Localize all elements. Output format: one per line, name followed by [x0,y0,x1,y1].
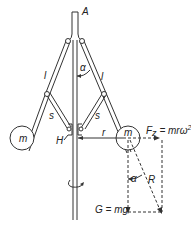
pivot-top-left [66,39,71,44]
link-right [81,94,106,129]
label-l-left: l [44,70,47,81]
pivot-sleeve-right [79,127,83,131]
label-weight: G = mg [95,204,129,215]
label-a: A [81,6,89,17]
label-s-right: s [95,110,100,121]
pivot-mid-left [45,92,50,97]
rotation-arrow-icon [68,180,84,187]
pivot-sleeve-left [67,127,71,131]
centrifugal-governor-diagram: A α l l s s m m H r Fz = mrω2 α R G = mg [0,0,191,226]
label-r: r [102,127,106,138]
label-alpha-upper: α [80,62,86,73]
label-resultant-r: R [148,174,155,185]
label-mass-right: m [124,127,132,138]
upper-arm-left [45,41,70,96]
pivot-top-right [80,39,85,44]
label-centrifugal-force: Fz = mrω2 [146,124,191,138]
label-h: H [56,135,64,146]
pivot-mid-right [102,92,107,97]
label-alpha-lower: α [131,173,137,184]
label-s-left: s [49,110,54,121]
label-l-right: l [101,71,104,82]
label-mass-left: m [19,133,27,144]
spindle-shaft [69,12,81,220]
h-leader-line [64,135,68,140]
resultant-arrowhead [157,207,162,214]
